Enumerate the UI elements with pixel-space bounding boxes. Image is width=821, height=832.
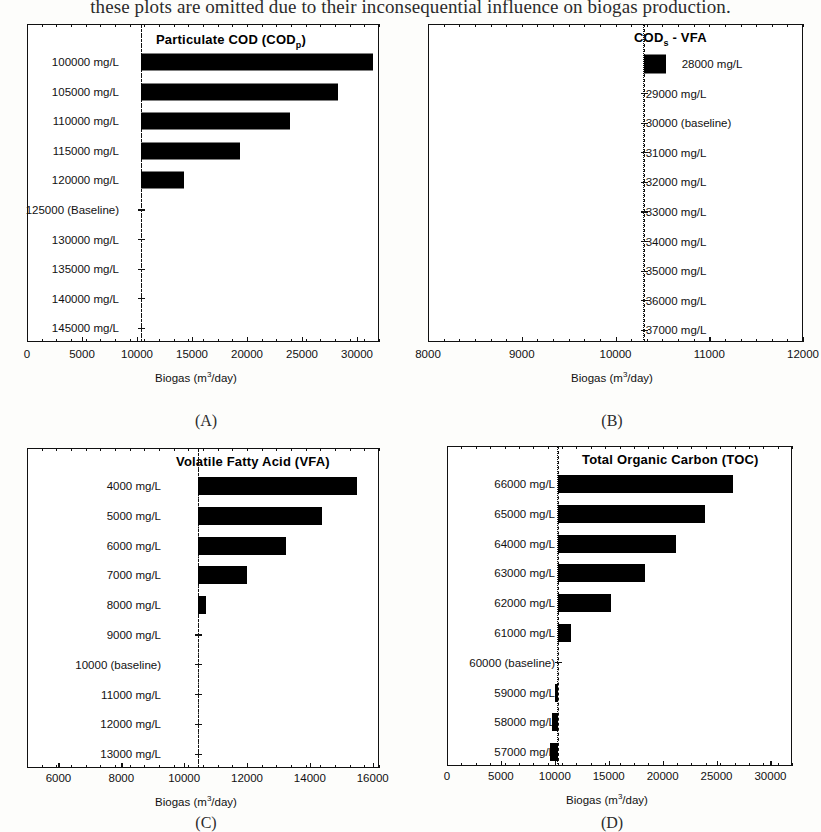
- x-minor-tick: [247, 765, 248, 768]
- x-minor-tick: [320, 339, 321, 342]
- row-label: 4000 mg/L: [6, 480, 161, 492]
- x-minor-tick: [491, 24, 492, 27]
- x-minor-tick: [490, 763, 491, 766]
- x-minor-tick: [648, 446, 649, 449]
- x-minor-tick: [174, 448, 175, 451]
- x-minor-tick: [232, 765, 233, 768]
- x-minor-tick: [159, 24, 160, 27]
- x-minor-tick: [600, 339, 601, 342]
- x-minor-tick: [720, 763, 721, 766]
- data-bar: [198, 596, 206, 614]
- x-minor-tick: [100, 24, 101, 27]
- x-minor-tick: [188, 24, 189, 27]
- x-minor-tick: [100, 765, 101, 768]
- x-minor-tick: [735, 446, 736, 449]
- x-minor-tick: [533, 763, 534, 766]
- x-minor-tick: [335, 448, 336, 451]
- x-minor-tick: [188, 339, 189, 342]
- x-minor-tick: [591, 763, 592, 766]
- x-minor-tick: [725, 339, 726, 342]
- x-minor-tick: [364, 765, 365, 768]
- x-minor-tick: [56, 339, 57, 342]
- x-minor-tick: [291, 339, 292, 342]
- baseline-tick: [641, 93, 648, 94]
- x-minor-tick: [174, 339, 175, 342]
- x-tick: [373, 763, 374, 768]
- x-minor-tick: [71, 765, 72, 768]
- x-minor-tick: [576, 446, 577, 449]
- x-minor-tick: [706, 763, 707, 766]
- x-minor-tick: [709, 339, 710, 342]
- data-bar: [141, 142, 240, 159]
- x-minor-tick: [335, 24, 336, 27]
- x-minor-tick: [741, 24, 742, 27]
- x-minor-tick: [616, 339, 617, 342]
- row-label: 29000 mg/L: [646, 88, 707, 100]
- x-minor-tick: [548, 446, 549, 449]
- x-minor-tick: [130, 339, 131, 342]
- row-label: 57000 mg/L: [412, 746, 555, 758]
- row-label: 66000 mg/L: [412, 478, 555, 490]
- x-minor-tick: [262, 448, 263, 451]
- row-label: 130000 mg/L: [6, 234, 119, 246]
- baseline-tick: [641, 211, 648, 212]
- data-bar: [141, 113, 290, 130]
- row-label: 59000 mg/L: [412, 687, 555, 699]
- x-minor-tick: [306, 448, 307, 451]
- data-bar: [198, 537, 286, 555]
- row-label: 13000 mg/L: [6, 748, 161, 760]
- row-label: 8000 mg/L: [6, 599, 161, 611]
- panel-c-volatile-fatty-acid: Volatile Fatty Acid (VFA)4000 mg/L5000 m…: [6, 428, 406, 826]
- x-minor-tick: [569, 24, 570, 27]
- x-minor-tick: [86, 339, 87, 342]
- x-minor-tick: [188, 765, 189, 768]
- x-tick-label: 14000: [294, 772, 326, 784]
- x-minor-tick: [691, 446, 692, 449]
- x-minor-tick: [662, 24, 663, 27]
- row-label: 35000 mg/L: [646, 265, 707, 277]
- x-minor-tick: [600, 24, 601, 27]
- x-tick-label: 12000: [787, 348, 819, 360]
- x-minor-tick: [678, 24, 679, 27]
- x-tick-label: 10000: [600, 348, 632, 360]
- x-tick-label: 10000: [539, 770, 571, 782]
- data-bar: [198, 507, 322, 525]
- x-minor-tick: [144, 24, 145, 27]
- x-minor-tick: [291, 765, 292, 768]
- x-minor-tick: [756, 24, 757, 27]
- row-label: 58000 mg/L: [412, 716, 555, 728]
- x-minor-tick: [350, 24, 351, 27]
- x-minor-tick: [792, 446, 793, 449]
- x-minor-tick: [364, 24, 365, 27]
- panel-title: Total Organic Carbon (TOC): [582, 452, 759, 467]
- x-minor-tick: [677, 763, 678, 766]
- x-minor-tick: [444, 24, 445, 27]
- x-minor-tick: [144, 339, 145, 342]
- data-bar: [550, 743, 558, 761]
- x-tick-label: 30000: [341, 348, 373, 360]
- x-tick-label: 15000: [176, 348, 208, 360]
- row-label: 7000 mg/L: [6, 569, 161, 581]
- x-minor-tick: [320, 448, 321, 451]
- x-minor-tick: [335, 339, 336, 342]
- x-minor-tick: [159, 448, 160, 451]
- x-minor-tick: [276, 339, 277, 342]
- x-tick-label: 11000: [694, 348, 725, 360]
- x-minor-tick: [159, 339, 160, 342]
- row-label: 145000 mg/L: [6, 322, 119, 334]
- baseline-tick: [138, 298, 145, 299]
- x-minor-tick: [663, 763, 664, 766]
- x-minor-tick: [709, 24, 710, 27]
- row-label: 34000 mg/L: [646, 236, 707, 248]
- baseline-tick: [195, 634, 202, 635]
- x-minor-tick: [262, 765, 263, 768]
- x-minor-tick: [174, 765, 175, 768]
- x-minor-tick: [749, 763, 750, 766]
- x-minor-tick: [763, 446, 764, 449]
- x-minor-tick: [735, 763, 736, 766]
- data-bar: [198, 477, 357, 495]
- x-minor-tick: [787, 24, 788, 27]
- x-tick-label: 8000: [415, 348, 441, 360]
- x-minor-tick: [803, 339, 804, 342]
- x-tick-label: 5000: [488, 770, 514, 782]
